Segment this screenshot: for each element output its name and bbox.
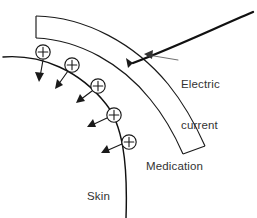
electric-current-line-2: current (181, 119, 220, 133)
ion-arrowhead (87, 119, 96, 127)
electric-current-label: Electric current (181, 51, 220, 159)
medication-label: Medication (146, 160, 203, 174)
ion-arrowhead (35, 72, 44, 82)
ion-marker (87, 108, 121, 127)
iontophoresis-diagram: Electric current Medication Skin (0, 0, 257, 218)
lead-junction (126, 58, 133, 68)
ion-marker (76, 79, 105, 103)
ion-marker (55, 58, 79, 89)
ion-arrowhead (76, 94, 85, 103)
leader-line (148, 55, 178, 60)
ion-marker (101, 135, 136, 153)
ion-arrowhead (101, 145, 110, 153)
ion-marker (35, 45, 50, 82)
skin-label: Skin (87, 190, 110, 204)
electric-current-line-1: Electric (181, 78, 220, 92)
band-inner-arc (36, 38, 183, 154)
